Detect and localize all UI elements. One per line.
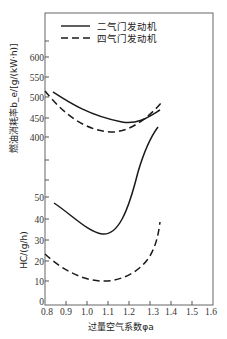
svg-text:550: 550: [30, 73, 45, 83]
bottom-y-axis: [45, 180, 49, 281]
top-y-tick-labels: 600 550 500 450 400: [30, 53, 45, 143]
fuel-two-valve-curve: [53, 92, 160, 123]
svg-text:1.3: 1.3: [147, 307, 159, 317]
hc-two-valve-curve: [54, 127, 158, 234]
x-axis-title: 过量空气系数φa: [88, 321, 153, 332]
svg-text:40: 40: [35, 215, 45, 225]
svg-text:30: 30: [35, 236, 45, 246]
legend: 二气门发动机 四气门发动机: [61, 21, 157, 44]
svg-text:1.5: 1.5: [186, 307, 198, 317]
bottom-y-tick-labels: 50 40 30 20 10 0: [35, 193, 45, 307]
chart: 二气门发动机 四气门发动机 600 550 500 450 400 燃油消耗率b…: [0, 0, 227, 339]
svg-text:10: 10: [35, 277, 45, 287]
svg-text:1.4: 1.4: [165, 307, 177, 317]
top-y-axis-title: 燃油消耗率b_e/[g/(kW·h)]: [8, 43, 19, 152]
svg-text:1.2: 1.2: [123, 307, 135, 317]
svg-text:1.1: 1.1: [102, 307, 114, 317]
svg-text:0: 0: [39, 297, 44, 307]
svg-text:500: 500: [30, 93, 45, 103]
plot-frame: [45, 13, 213, 305]
top-y-axis: [45, 41, 49, 160]
svg-text:20: 20: [35, 257, 45, 267]
x-tick-labels: 0.8 0.9 1.0 1.1 1.2 1.3 1.4 1.5 1.6: [41, 307, 217, 317]
bottom-y-axis-title: HC/(g/h): [19, 231, 29, 269]
legend-label-four-valve: 四气门发动机: [97, 33, 157, 44]
svg-text:450: 450: [30, 114, 45, 124]
legend-label-two-valve: 二气门发动机: [97, 21, 157, 32]
svg-text:1.0: 1.0: [81, 307, 93, 317]
svg-text:400: 400: [30, 133, 45, 143]
svg-text:0.8: 0.8: [41, 307, 53, 317]
svg-text:0.9: 0.9: [60, 307, 72, 317]
hc-four-valve-curve: [45, 222, 160, 281]
svg-text:1.6: 1.6: [205, 307, 217, 317]
svg-text:50: 50: [35, 193, 45, 203]
x-axis: [66, 301, 192, 305]
svg-text:600: 600: [30, 53, 45, 63]
